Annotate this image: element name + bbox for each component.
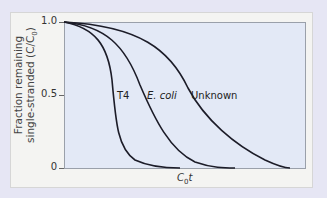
- label-t4: T4: [117, 90, 129, 101]
- x-axis-label: C0t: [177, 172, 192, 186]
- label-unknown: Unknown: [191, 90, 237, 101]
- label-ecoli: E. coli: [147, 90, 177, 101]
- y-tick-mark-0: [59, 168, 64, 169]
- y-tick-mark-1: [59, 22, 64, 23]
- y-axis-label: Fraction remaining single-stranded (C/C0…: [12, 20, 41, 150]
- curve-unknown: [64, 22, 290, 168]
- y-tick-0: 0: [27, 161, 57, 172]
- y-tick-mark-05: [59, 95, 64, 96]
